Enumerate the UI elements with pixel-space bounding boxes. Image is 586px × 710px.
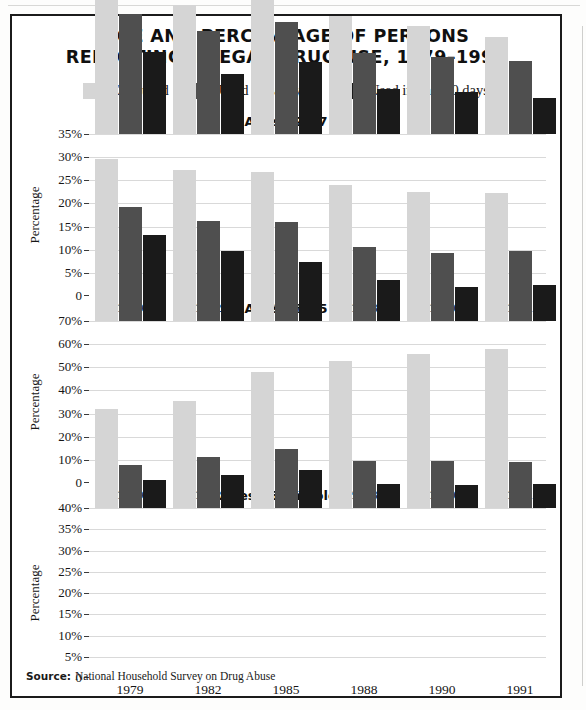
axis-tick-mark — [84, 295, 89, 296]
y-tick-label: 20% — [58, 195, 82, 211]
y-tick-label: 15% — [58, 606, 82, 622]
bar — [173, 170, 196, 321]
axis-tick-mark — [84, 273, 89, 274]
axis-tick-mark — [84, 157, 89, 158]
y-tick-label: 40% — [58, 382, 82, 398]
bar — [275, 449, 298, 508]
bar — [377, 89, 400, 134]
chart-panel-ages-26-and-older: Ages 26 and older Percentage 05%10%15%20… — [12, 488, 560, 680]
axis-tick-mark — [84, 614, 89, 615]
axis-tick-mark — [84, 367, 89, 368]
bar — [221, 251, 244, 321]
bar — [407, 26, 430, 134]
axis-tick-mark — [84, 134, 89, 135]
y-tick-label: 35% — [58, 521, 82, 537]
bar — [509, 462, 532, 508]
source-note: Source:National Household Survey on Drug… — [26, 670, 275, 682]
gridline — [89, 414, 546, 415]
scan-rule-right — [582, 26, 583, 686]
plot-inner — [88, 321, 546, 322]
bar — [275, 22, 298, 134]
axis-tick-mark — [84, 657, 89, 658]
bar — [95, 409, 118, 508]
figure-inner: AGE AND PERCENTAGE OF PERSONS REPORTING … — [12, 16, 560, 696]
bar — [119, 465, 142, 508]
bar — [353, 461, 376, 508]
axis-tick-mark — [84, 227, 89, 228]
bar — [197, 457, 220, 508]
x-tick-label: 1985 — [244, 682, 322, 698]
plot-area: Percentage 05%10%15%20%25%30%35%40% — [12, 508, 560, 678]
y-tick-label: 25% — [58, 172, 82, 188]
bar — [431, 57, 454, 134]
bar — [173, 401, 196, 508]
bar — [95, 0, 118, 134]
y-tick-label: 60% — [58, 336, 82, 352]
bar — [221, 475, 244, 508]
gridline — [89, 636, 546, 637]
bar — [143, 235, 166, 321]
gridline — [89, 344, 546, 345]
gridline — [89, 180, 546, 181]
bar — [509, 251, 532, 321]
bar — [533, 285, 556, 321]
bar — [173, 5, 196, 134]
x-tick-label: 1979 — [88, 682, 166, 698]
bar — [455, 92, 478, 134]
axis-tick-mark — [84, 572, 89, 573]
y-tick-label: 50% — [58, 359, 82, 375]
bar — [197, 221, 220, 321]
bar — [455, 485, 478, 508]
gridline — [89, 227, 546, 228]
bar — [377, 484, 400, 508]
bar — [251, 172, 274, 321]
gridline — [89, 657, 546, 658]
y-tick-label: 10% — [58, 628, 82, 644]
axis-tick-mark — [84, 250, 89, 251]
bar — [533, 98, 556, 134]
source-label: Source: — [26, 670, 71, 682]
y-tick-label: 20% — [58, 429, 82, 445]
axis-tick-mark — [84, 593, 89, 594]
y-tick-label: 40% — [58, 500, 82, 516]
plot-inner — [88, 134, 546, 135]
bar — [119, 14, 142, 134]
bar — [299, 62, 322, 134]
y-axis-label: Percentage — [26, 321, 44, 483]
gridline — [89, 593, 546, 594]
bar — [221, 74, 244, 134]
axis-tick-mark — [84, 203, 89, 204]
bar — [299, 262, 322, 321]
bar — [329, 16, 352, 134]
y-tick-label: 30% — [58, 543, 82, 559]
bar — [95, 159, 118, 321]
gridline — [89, 614, 546, 615]
bar — [119, 207, 142, 321]
gridline — [89, 572, 546, 573]
x-tick-label: 1988 — [322, 682, 400, 698]
bar — [143, 52, 166, 134]
bar — [353, 247, 376, 321]
y-tick-label: 70% — [58, 313, 82, 329]
gridline — [89, 508, 546, 509]
y-tick-label: 20% — [58, 585, 82, 601]
axis-tick-mark — [84, 321, 89, 322]
bar — [275, 222, 298, 321]
x-axis-labels: 197919821985198819901991 — [88, 682, 546, 698]
bar — [431, 461, 454, 508]
gridline — [89, 203, 546, 204]
bar — [251, 0, 274, 134]
bar — [431, 253, 454, 321]
bar — [299, 470, 322, 508]
gridline — [89, 437, 546, 438]
bar — [197, 31, 220, 134]
bar — [251, 372, 274, 508]
bar — [143, 480, 166, 508]
axis-tick-mark — [84, 437, 89, 438]
y-tick-label: 10% — [58, 242, 82, 258]
source-text: National Household Survey on Drug Abuse — [75, 670, 275, 682]
y-tick-label: 10% — [58, 452, 82, 468]
y-axis-label: Percentage — [26, 134, 44, 296]
axis-tick-mark — [84, 482, 89, 483]
axis-tick-mark — [84, 636, 89, 637]
